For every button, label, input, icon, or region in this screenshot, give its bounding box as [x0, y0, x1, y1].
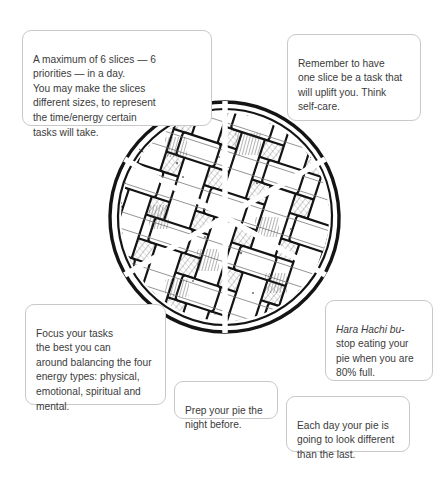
- pie-drawing: [105, 97, 345, 337]
- callout-prep-ahead: Prep your pie the night before.: [174, 381, 278, 419]
- callout-energy-types: Focus your tasks the best you can around…: [25, 304, 166, 405]
- callout-hara-hachi-bu-lead: Hara Hachi bu-: [336, 324, 405, 335]
- callout-daily-variation-text: Each day your pie is going to look diffe…: [297, 420, 394, 460]
- callout-max-slices-text: A maximum of 6 slices — 6 priorities — i…: [33, 54, 156, 138]
- lattice-pie-illustration: [105, 97, 345, 337]
- worksheet-canvas: A maximum of 6 slices — 6 priorities — i…: [0, 0, 442, 477]
- callout-energy-types-text: Focus your tasks the best you can around…: [36, 328, 152, 412]
- callout-self-care-text: Remember to have one slice be a task tha…: [298, 58, 402, 113]
- callout-hara-hachi-bu: Hara Hachi bu- stop eating your pie when…: [325, 300, 433, 381]
- callout-self-care: Remember to have one slice be a task tha…: [287, 34, 421, 121]
- callout-hara-hachi-bu-text: stop eating your pie when you are 80% fu…: [336, 338, 414, 378]
- callout-max-slices: A maximum of 6 slices — 6 priorities — i…: [22, 30, 212, 126]
- callout-daily-variation: Each day your pie is going to look diffe…: [286, 396, 410, 452]
- callout-prep-ahead-text: Prep your pie the night before.: [185, 405, 263, 431]
